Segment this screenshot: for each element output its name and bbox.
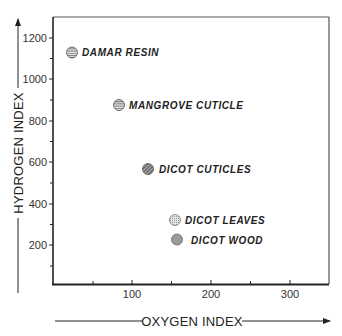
- x-tick-300: 300: [281, 288, 299, 300]
- y-axis-title-group: HYDROGEN INDEX: [11, 19, 26, 293]
- y-tick-800: 800: [29, 115, 47, 127]
- data-point-dicot-wood: DICOT WOOD: [172, 234, 264, 246]
- diagonal-hatched-circle-marker-icon: [143, 164, 154, 175]
- x-axis-title-group: OXYGEN INDEX: [55, 314, 330, 329]
- x-axis-title: OXYGEN INDEX: [141, 314, 242, 329]
- point-label: DICOT LEAVES: [185, 215, 265, 226]
- y-tick-1000: 1000: [23, 73, 47, 85]
- hatched-circle-marker-icon: [67, 47, 78, 58]
- data-point-dicot-cuticles: DICOT CUTICLES: [143, 164, 252, 176]
- point-label: DICOT CUTICLES: [159, 164, 251, 175]
- x-tick-labels: 100 200 300: [123, 288, 299, 300]
- data-point-dicot-leaves: DICOT LEAVES: [170, 215, 266, 227]
- y-tick-200: 200: [29, 239, 47, 251]
- dotted-circle-marker-icon: [170, 215, 181, 226]
- hatched-circle-marker-icon: [114, 100, 125, 111]
- y-tick-600: 600: [29, 156, 47, 168]
- y-tick-labels: 1200 1000 800 600 400 200: [23, 32, 47, 251]
- point-label: DICOT WOOD: [191, 235, 263, 246]
- x-tick-100: 100: [123, 288, 141, 300]
- y-tick-1200: 1200: [23, 32, 47, 44]
- point-label: DAMAR RESIN: [82, 47, 159, 58]
- data-point-mangrove-cuticle: MANGROVE CUTICLE: [114, 100, 244, 112]
- data-point-damar-resin: DAMAR RESIN: [67, 47, 160, 58]
- point-label: MANGROVE CUTICLE: [129, 100, 244, 111]
- solid-circle-marker-icon: [172, 234, 183, 245]
- y-axis-title: HYDROGEN INDEX: [11, 92, 26, 213]
- x-tick-200: 200: [202, 288, 220, 300]
- scatter-chart: 1200 1000 800 600 400 200 100 200 300 OX…: [0, 0, 342, 336]
- y-tick-400: 400: [29, 198, 47, 210]
